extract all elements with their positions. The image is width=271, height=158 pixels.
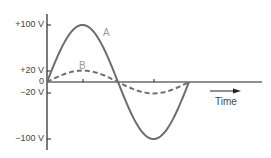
x-axis-label: Time bbox=[215, 96, 237, 107]
y-label-plus100: +100 V bbox=[4, 19, 44, 29]
y-label-minus100: −100 V bbox=[4, 133, 44, 143]
time-arrow-icon bbox=[233, 89, 241, 94]
y-label-plus20: +20 V bbox=[4, 65, 44, 75]
y-label-zero: 0 bbox=[4, 76, 44, 86]
curve-a-label: A bbox=[103, 27, 110, 38]
sine-wave-diagram: +100 V +20 V 0 −20 V −100 V A B Time bbox=[0, 0, 271, 158]
curve-b-label: B bbox=[79, 60, 86, 71]
y-label-minus20: −20 V bbox=[4, 87, 44, 97]
